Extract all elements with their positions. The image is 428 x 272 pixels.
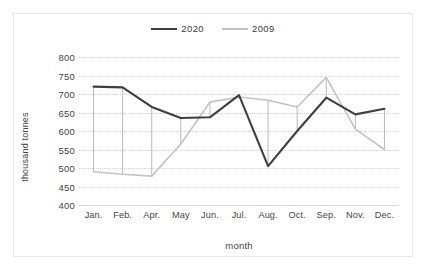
y-tick-label-550: 550 bbox=[59, 144, 75, 155]
legend-item-2009: 2009 bbox=[222, 23, 275, 34]
y-tick-label-500: 500 bbox=[59, 163, 75, 174]
legend-label-2020: 2020 bbox=[181, 23, 204, 34]
x-axis-title: month bbox=[79, 240, 399, 251]
x-tick-label-jun: Jun. bbox=[201, 210, 219, 220]
series-line-2009 bbox=[94, 77, 385, 176]
chart-legend: 2020 2009 bbox=[14, 23, 412, 34]
y-tick-label-650: 650 bbox=[59, 107, 75, 118]
x-tick-label-nov: Nov. bbox=[346, 210, 365, 220]
gridline-400 bbox=[79, 205, 399, 206]
series-lines bbox=[79, 57, 399, 205]
series-line-2020 bbox=[94, 87, 385, 167]
legend-line-icon-2020 bbox=[151, 28, 177, 30]
x-axis-tick-labels: Jan.Feb.Apr.MayJun.Jul.Aug.Oct.Sep.Nov.D… bbox=[79, 210, 399, 226]
y-axis-tick-labels: 800750700650600550500450400 bbox=[39, 57, 75, 205]
x-tick-label-aug: Aug. bbox=[258, 210, 277, 220]
x-tick-label-oct: Oct. bbox=[289, 210, 306, 220]
y-axis-title: thousand tonnes bbox=[20, 73, 36, 221]
legend-label-2009: 2009 bbox=[252, 23, 275, 34]
chart-container: 2020 2009 thousand tonnes 80075070065060… bbox=[13, 13, 413, 257]
x-tick-label-apr: Apr. bbox=[143, 210, 160, 220]
y-tick-label-600: 600 bbox=[59, 126, 75, 137]
legend-item-2020: 2020 bbox=[151, 23, 204, 34]
x-tick-label-jan: Jan. bbox=[85, 210, 103, 220]
y-tick-label-450: 450 bbox=[59, 181, 75, 192]
y-tick-label-700: 700 bbox=[59, 89, 75, 100]
x-tick-label-sep: Sep. bbox=[317, 210, 336, 220]
y-tick-label-800: 800 bbox=[59, 52, 75, 63]
plot-area bbox=[79, 57, 399, 205]
x-tick-label-feb: Feb. bbox=[113, 210, 132, 220]
y-tick-label-400: 400 bbox=[59, 200, 75, 211]
x-tick-label-dec: Dec. bbox=[375, 210, 394, 220]
x-tick-label-jul: Jul. bbox=[232, 210, 247, 220]
x-tick-label-may: May bbox=[172, 210, 190, 220]
y-tick-label-750: 750 bbox=[59, 70, 75, 81]
legend-line-icon-2009 bbox=[222, 28, 248, 30]
